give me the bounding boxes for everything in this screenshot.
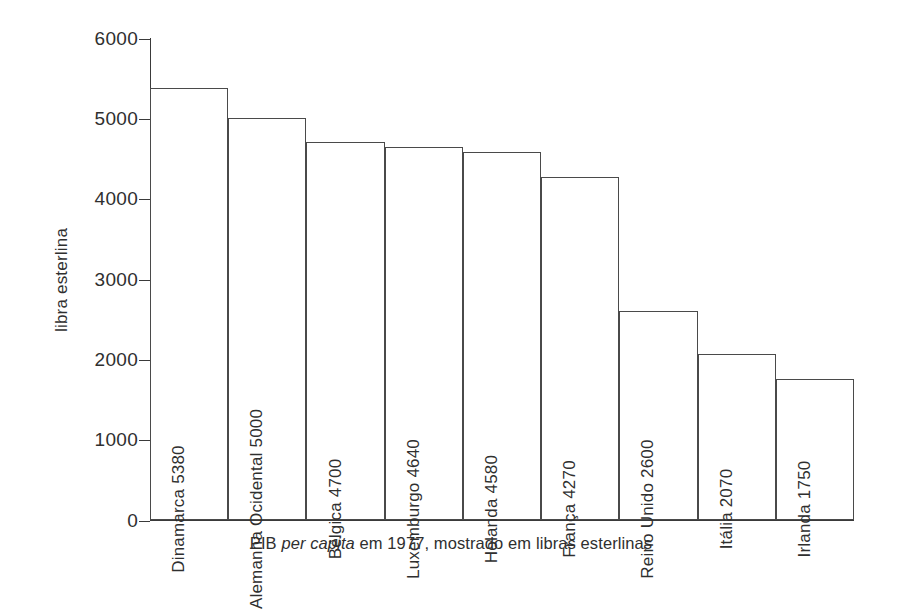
bar: Holanda 4580 — [463, 152, 541, 520]
caption-italic: per capita — [281, 534, 354, 552]
y-tick-label: 2000 — [95, 349, 138, 371]
y-tick-label: 4000 — [95, 188, 138, 210]
bar: Bélgica 4700 — [306, 142, 384, 520]
bar-label: Luxemburgo 4640 — [404, 439, 424, 579]
bar-label: Alemanha Ocidental 5000 — [247, 409, 267, 609]
chart-caption: PIB per capita em 1977, mostrado em libr… — [0, 534, 902, 553]
bar-label: Reino Unido 2600 — [638, 439, 658, 578]
y-tick-2000: 2000 — [0, 359, 150, 360]
y-tick-label: 1000 — [95, 429, 138, 451]
y-tick-3000: 3000 — [0, 279, 150, 280]
y-tick-mark — [139, 119, 150, 120]
bar: Luxemburgo 4640 — [385, 147, 463, 520]
y-tick-label: 0 — [127, 510, 138, 532]
bar: Alemanha Ocidental 5000 — [228, 118, 306, 520]
y-tick-mark — [139, 521, 150, 522]
y-tick-label: 6000 — [95, 28, 138, 50]
y-tick-6000: 6000 — [0, 38, 150, 39]
y-tick-4000: 4000 — [0, 199, 150, 200]
y-tick-mark — [139, 440, 150, 441]
y-tick-label: 3000 — [95, 269, 138, 291]
plot-area: Dinamarca 5380Alemanha Ocidental 5000Bél… — [150, 38, 854, 520]
y-tick-mark — [139, 360, 150, 361]
bar: França 4270 — [541, 177, 619, 520]
y-tick-5000: 5000 — [0, 118, 150, 119]
y-axis-ticks: 6000500040003000200010000 — [0, 0, 150, 569]
y-tick-mark — [139, 39, 150, 40]
x-axis-line — [150, 520, 854, 521]
bar: Dinamarca 5380 — [150, 88, 228, 520]
bar-label: Dinamarca 5380 — [169, 445, 189, 573]
y-tick-mark — [139, 199, 150, 200]
caption-suffix: em 1977, mostrado em libras esterlinas — [355, 534, 652, 552]
caption-prefix: PIB — [250, 534, 282, 552]
y-tick-mark — [139, 280, 150, 281]
bar: Reino Unido 2600 — [619, 311, 697, 520]
y-tick-0: 0 — [0, 520, 150, 521]
bar: Itália 2070 — [698, 354, 776, 520]
y-tick-label: 5000 — [95, 108, 138, 130]
bar: Irlanda 1750 — [776, 379, 854, 520]
y-tick-1000: 1000 — [0, 440, 150, 441]
